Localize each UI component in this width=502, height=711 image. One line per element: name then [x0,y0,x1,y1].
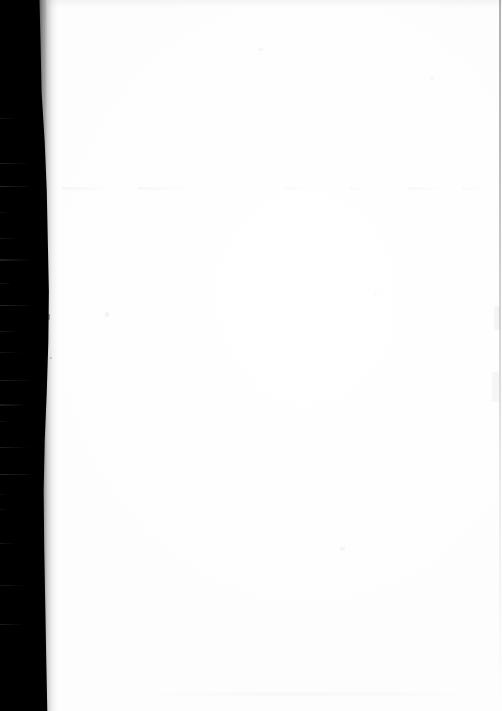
scanned-page [0,0,502,711]
paper-surface [0,0,502,711]
paper-tone-gradient [40,0,502,711]
